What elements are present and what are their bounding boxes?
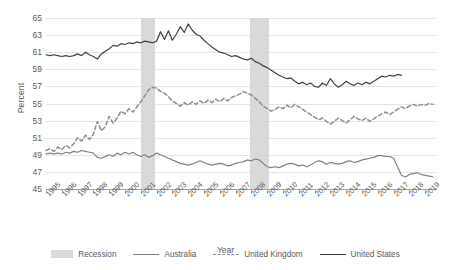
legend-item-australia[interactable]: Australia	[133, 250, 196, 259]
employment-rate-line-chart: Percent 4547495153555759616365 199519961…	[0, 0, 451, 270]
y-axis-tick-label: 47	[18, 168, 42, 177]
legend-label: United Kingdom	[244, 250, 302, 259]
legend-item-united-states[interactable]: United States	[320, 250, 400, 259]
legend-swatch-solid-line	[133, 254, 159, 255]
series-line-australia	[46, 151, 433, 178]
chart-legend: RecessionAustraliaUnited KingdomUnited S…	[0, 243, 451, 265]
series-line-united-kingdom	[46, 87, 433, 151]
legend-label: Australia	[164, 250, 196, 259]
legend-label: United States	[351, 250, 400, 259]
y-axis-tick-label: 53	[18, 117, 42, 126]
y-axis-tick-label: 51	[18, 134, 42, 143]
y-axis-tick-label: 59	[18, 65, 42, 74]
legend-swatch-band	[51, 250, 73, 258]
y-axis-tick-label: 63	[18, 31, 42, 40]
plot-area	[46, 18, 437, 189]
legend-swatch-dark-line	[320, 254, 346, 255]
legend-label: Recession	[78, 250, 116, 259]
series-line-united-states	[46, 24, 401, 87]
series-lines	[46, 18, 437, 189]
y-axis-tick-label: 49	[18, 151, 42, 160]
y-axis-tick-label: 65	[18, 14, 42, 23]
y-axis-tick-labels: 4547495153555759616365	[16, 18, 42, 189]
y-axis-tick-label: 57	[18, 82, 42, 91]
y-axis-tick-label: 61	[18, 48, 42, 57]
y-axis-tick-label: 55	[18, 100, 42, 109]
legend-item-united-kingdom[interactable]: United Kingdom	[213, 250, 302, 259]
legend-item-recession[interactable]: Recession	[51, 250, 116, 259]
legend-swatch-dashed-line	[213, 254, 239, 255]
y-axis-tick-label: 45	[18, 185, 42, 194]
